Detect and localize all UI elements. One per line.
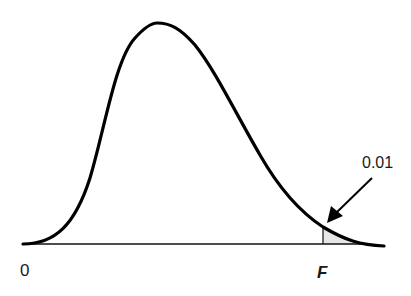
x-tick-critical-f: F [317,264,327,281]
tail-area-annotation: 0.01 [362,155,393,171]
f-distribution-chart [0,0,411,296]
x-tick-origin: 0 [20,262,29,279]
annotation-arrow-shaft [336,178,372,213]
